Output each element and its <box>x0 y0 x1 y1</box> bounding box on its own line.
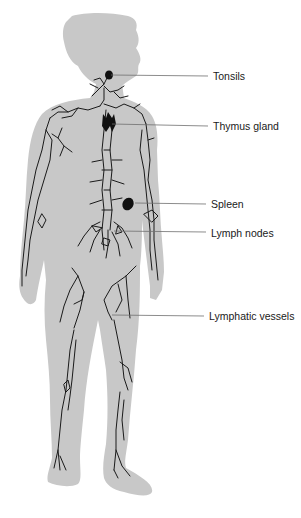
label-lymphatic-vessels: Lymphatic vessels <box>209 310 294 322</box>
label-spleen: Spleen <box>211 198 244 210</box>
lymphatic-system-diagram <box>0 0 301 518</box>
label-lymph-nodes: Lymph nodes <box>211 227 274 239</box>
label-tonsils: Tonsils <box>213 70 245 82</box>
label-thymus-gland: Thymus gland <box>213 120 279 132</box>
